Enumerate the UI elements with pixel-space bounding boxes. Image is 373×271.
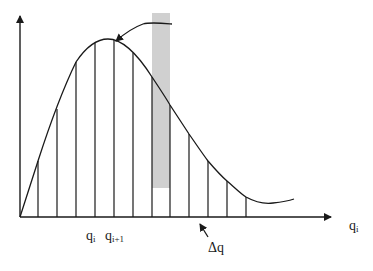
label-delta-q: Δq	[208, 240, 224, 255]
delta-q-arrow	[200, 224, 208, 237]
strip-lines	[38, 40, 246, 217]
label-qi: qi	[86, 228, 96, 244]
x-axis-label: qi	[349, 218, 359, 234]
label-qi-plus-1: qi+1	[105, 228, 124, 244]
distribution-diagram: qi qi+1 Δq qi	[0, 0, 373, 271]
